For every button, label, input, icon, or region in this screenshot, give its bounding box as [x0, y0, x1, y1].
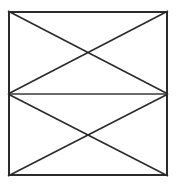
figure-svg [0, 0, 179, 188]
figure-canvas [0, 0, 179, 188]
